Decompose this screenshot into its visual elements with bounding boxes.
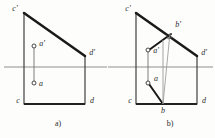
outline-a [24,13,85,104]
caption-panel-a: a) [55,119,62,128]
point-a-marker-b [146,81,150,85]
label-c-prime-b: c' [125,4,131,13]
label-a-prime-b: a' [153,46,159,55]
point-a-prime-marker-a [32,44,36,48]
label-c-prime-a: c' [12,4,18,13]
label-d-prime-b: d' [201,48,207,57]
edge-cprime-dprime-a [24,13,85,56]
panel-a: c' d' a' a c d a) [4,4,107,128]
label-c-b: c [128,96,132,105]
point-a-prime-marker-b [146,48,150,52]
label-a-b: a [154,74,158,83]
label-d-prime-a: d' [89,48,95,57]
figure-canvas: c' d' a' a c d a) [0,0,215,138]
caption-panel-b: b) [167,119,174,128]
outline-b [136,13,197,104]
projection-line-b-panel-b [163,33,170,104]
figure-root: c' d' a' a c d a) [0,0,215,138]
segment-a-b [149,84,163,104]
label-c-a: c [16,96,20,105]
label-b-prime-b: b' [175,20,181,29]
label-a-prime-a: a' [39,39,45,48]
panel-b: c' b' d' a' a c b d b) [108,4,213,128]
label-d-b: d [202,96,207,105]
point-a-marker-a [32,81,36,85]
label-b-b: b [161,106,165,115]
label-d-a: d [90,96,95,105]
label-a-a: a [39,79,43,88]
